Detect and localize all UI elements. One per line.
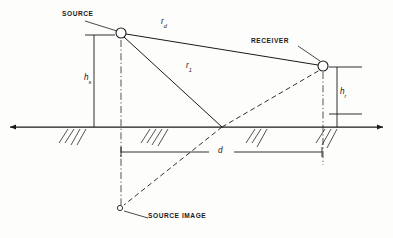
direct-path-line xyxy=(126,34,318,65)
centerline-group xyxy=(121,40,323,205)
source-image-label: SOURCE IMAGE xyxy=(148,213,206,220)
receiver-height-label: hr xyxy=(340,88,346,96)
source-point-marker xyxy=(116,28,126,38)
reflected-path-incident-line xyxy=(124,37,222,127)
hatch-tick xyxy=(257,129,267,147)
source-height-label: hs xyxy=(84,74,91,82)
receiver-height-symbol: h xyxy=(340,87,345,96)
source-height-symbol: h xyxy=(84,73,89,82)
receiver-label: RECEIVER xyxy=(251,38,289,45)
hatch-tick xyxy=(158,129,168,146)
source-image-point-marker xyxy=(117,205,122,210)
ground-line-left-cap xyxy=(10,125,16,130)
direct-path-label: rd xyxy=(161,18,167,26)
source-image-ray-line xyxy=(124,127,222,205)
receiver-point-marker xyxy=(318,61,328,71)
source-label-leader xyxy=(85,21,117,31)
reflected-path-label: r1 xyxy=(186,62,192,70)
source-label: SOURCE xyxy=(62,11,94,18)
diagram-canvas xyxy=(0,0,393,238)
hatch-tick xyxy=(327,129,337,148)
reflected-path-outgoing-line xyxy=(222,70,320,127)
direct-path-subscript: d xyxy=(164,23,167,29)
ground-line-right-cap xyxy=(377,125,383,130)
receiver-label-leader xyxy=(298,46,320,61)
hatch-tick xyxy=(152,129,162,145)
ground-hatching-group xyxy=(59,129,337,148)
source-image-label-leader xyxy=(124,211,148,218)
separation-label: d xyxy=(218,147,223,155)
acoustic-propagation-geometry-figure: SOURCE RECEIVER SOURCE IMAGE rd r1 hs hr… xyxy=(0,0,393,238)
ground-line-group xyxy=(10,125,383,130)
reflected-path-subscript: 1 xyxy=(189,67,192,73)
hatch-tick xyxy=(316,129,325,143)
source-height-subscript: s xyxy=(89,79,92,85)
